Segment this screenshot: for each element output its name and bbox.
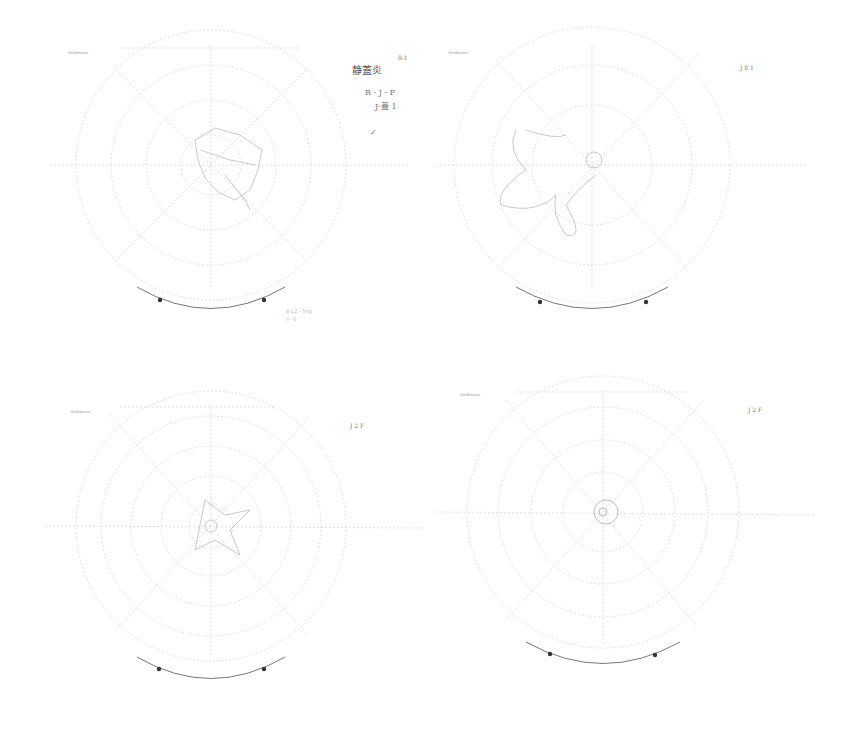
handwritten-annotation: J 2 F xyxy=(748,406,762,413)
polar-grid-top-left xyxy=(0,0,426,370)
visual-field-chart-top-left: Goldmann 8-1 静蓋炎 R - J - F J-蓋 1 ✓ ø 1.2… xyxy=(0,0,426,370)
chart-header-label: Goldmann xyxy=(68,50,88,55)
visual-field-chart-bottom-left: Goldmann J 2 F xyxy=(0,370,426,740)
chart-header-label: Goldmann xyxy=(460,392,480,397)
blind-spot-dot xyxy=(644,300,648,304)
blind-spot-dot xyxy=(262,298,266,302)
blind-spot-dot xyxy=(653,653,657,657)
handwritten-annotation: 静蓋炎 xyxy=(352,62,382,77)
handwritten-annotation: J 2 F xyxy=(350,422,364,429)
fixation-arc xyxy=(516,287,668,309)
visual-field-chart-top-right: Goldmann J 8 1 xyxy=(426,0,852,370)
blind-spot-dot xyxy=(262,667,266,671)
polar-grid-top-right xyxy=(426,0,852,370)
blind-spot-dot xyxy=(548,652,552,656)
handwritten-annotation: J-蓋 1 xyxy=(375,100,397,111)
blind-spot-dot xyxy=(157,667,161,671)
chart-header-label: Goldmann xyxy=(70,409,90,414)
handwritten-annotation: J 8 1 xyxy=(740,64,754,71)
handwritten-annotation: R - J - F xyxy=(365,88,395,97)
footnote: ø 1.2 - 7mg xyxy=(286,308,312,314)
blind-spot-dot xyxy=(538,300,542,304)
blind-spot-dot xyxy=(158,298,162,302)
footnote: n - 0 xyxy=(286,316,296,322)
chart-header-label: Goldmann xyxy=(448,50,468,55)
check-mark: ✓ xyxy=(370,128,377,137)
fixation-arc xyxy=(137,287,285,309)
visual-field-chart-bottom-right: Goldmann J 2 F xyxy=(426,370,852,740)
polar-grid-bottom-right xyxy=(426,370,852,740)
corner-mark: 8-1 xyxy=(398,54,408,61)
